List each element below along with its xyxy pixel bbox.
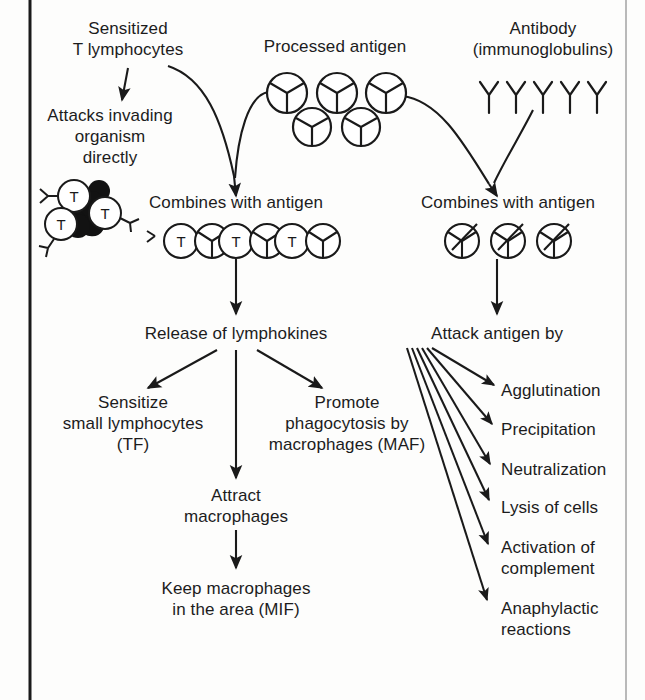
svg-text:T: T: [69, 188, 78, 205]
diagram-canvas: T T T: [0, 0, 645, 700]
label-agglutination: Agglutination: [501, 380, 601, 401]
antibody-4: [561, 82, 579, 113]
processed-antigen-cluster: [267, 73, 406, 146]
antigen-circle-1: [267, 73, 307, 113]
arrow-to-lysis: [417, 348, 489, 500]
arrow-lymphokines-to-promote: [257, 350, 322, 388]
antibody-antigen-complex-1: [445, 224, 479, 258]
svg-text:T: T: [100, 205, 109, 222]
antibody-row: [480, 82, 606, 113]
label-anaphylactic-reactions: Anaphylactic reactions: [501, 598, 599, 640]
t-cell-2: T: [39, 208, 77, 257]
label-combines-with-antigen-left: Combines with antigen: [149, 192, 323, 213]
t-antigen-complex-3: T: [275, 224, 340, 258]
arrow-lymphokines-to-sensitize: [148, 350, 217, 388]
label-antibody: Antibody (immunoglobulins): [473, 18, 614, 60]
antibody-antigen-complex-2: [491, 224, 525, 258]
label-attacks-invading-organism: Attacks invading organism directly: [47, 105, 172, 168]
svg-text:T: T: [287, 233, 296, 250]
label-keep-macrophages: Keep macrophages in the area (MIF): [161, 578, 310, 620]
svg-text:T: T: [231, 233, 240, 250]
antibody-1: [480, 82, 498, 113]
arrow-to-neutralization: [422, 348, 490, 464]
svg-text:T: T: [176, 233, 185, 250]
label-lysis-of-cells: Lysis of cells: [501, 497, 598, 518]
label-attack-antigen-by: Attack antigen by: [431, 323, 563, 344]
antigen-circle-4: [293, 108, 331, 146]
label-attract-macrophages: Attract macrophages: [184, 485, 288, 527]
label-release-of-lymphokines: Release of lymphokines: [145, 323, 328, 344]
label-neutralization: Neutralization: [501, 459, 606, 480]
arrow-antibody-to-combines-right: [494, 110, 533, 183]
arrow-to-anaphylactic: [407, 348, 487, 600]
svg-text:T: T: [56, 216, 65, 233]
label-sensitized-t-lymphocytes: Sensitized T lymphocytes: [73, 18, 184, 60]
t-cell-cluster-graphic: T T T: [39, 180, 139, 257]
antibody-2: [507, 82, 525, 113]
antibody-5: [588, 82, 606, 113]
arrow-antigen-to-combines-left: [235, 92, 268, 178]
attack-antigen-arrow-fan: [407, 348, 494, 600]
antigen-circle-5: [342, 108, 380, 146]
arrow-sensitized-to-combines: [168, 66, 236, 196]
label-precipitation: Precipitation: [501, 419, 596, 440]
t-cell-3: T: [89, 197, 139, 232]
antibody-antigen-complex-3: [537, 224, 571, 258]
antibody-3: [534, 82, 552, 113]
label-sensitize-small-lymphocytes: Sensitize small lymphocytes (TF): [63, 392, 204, 455]
t-antigen-complex-row: T T T: [147, 224, 340, 258]
arrow-sensitized-to-attacks: [122, 68, 128, 100]
label-processed-antigen: Processed antigen: [264, 36, 407, 57]
label-promote-phagocytosis: Promote phagocytosis by macrophages (MAF…: [269, 392, 426, 455]
label-combines-with-antigen-right: Combines with antigen: [421, 192, 595, 213]
t-cell-1: T: [40, 180, 90, 212]
antigen-circle-3: [366, 73, 406, 113]
antibody-antigen-complex-row: [445, 224, 571, 258]
t-antigen-complex-1: T: [147, 224, 229, 258]
arrow-antigen-to-combines-right: [402, 96, 497, 196]
antigen-circle-2: [317, 73, 357, 113]
label-activation-of-complement: Activation of complement: [501, 537, 595, 579]
